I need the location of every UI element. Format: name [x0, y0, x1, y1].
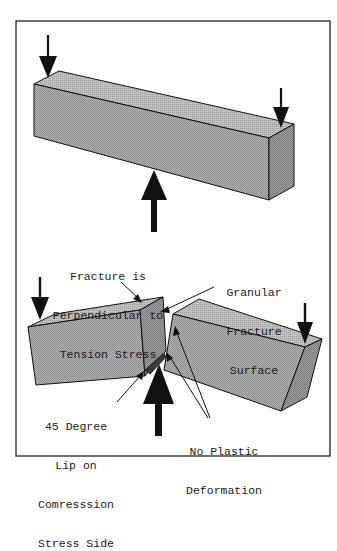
label-line: Surface — [214, 364, 294, 377]
label-line: No Plastic — [172, 445, 276, 458]
label-line: Fracture — [214, 325, 294, 338]
label-line: Lip on — [26, 459, 126, 472]
label-granular-surface: Granular Fracture Surface — [214, 260, 294, 403]
label-line: Deformation — [172, 484, 276, 497]
label-line: Comresssion — [26, 498, 126, 511]
label-no-plastic: No Plastic Deformation — [172, 419, 276, 523]
label-line: Stress Side — [26, 537, 126, 550]
label-line: 45 Degree — [26, 420, 126, 433]
beam-end-face — [269, 124, 294, 200]
support-arrow-center-top — [141, 170, 167, 232]
label-line: Fracture is — [44, 270, 172, 283]
intact-beam — [34, 71, 294, 200]
label-line: Tension Stress — [44, 348, 172, 361]
label-line: Perpendicular to — [44, 309, 172, 322]
label-fracture-perpendicular: Fracture is Perpendicular to Tension Str… — [44, 244, 172, 387]
label-lip-compression: 45 Degree Lip on Comresssion Stress Side — [26, 394, 126, 551]
label-line: Granular — [214, 286, 294, 299]
load-arrow-left-top — [39, 35, 57, 78]
